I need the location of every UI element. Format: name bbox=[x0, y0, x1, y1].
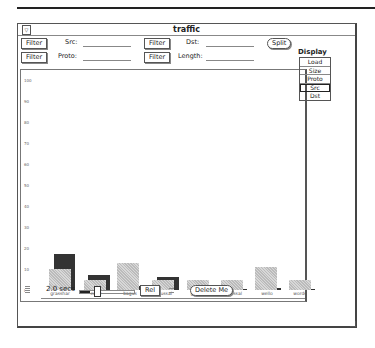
display-item-size[interactable]: Size bbox=[300, 67, 330, 76]
window-title: traffic bbox=[18, 24, 355, 35]
rel-button[interactable]: Rel bbox=[140, 285, 160, 296]
slider-knob[interactable] bbox=[94, 286, 101, 297]
dst-filter-button[interactable]: Filter bbox=[144, 38, 170, 49]
src-input[interactable] bbox=[83, 38, 131, 47]
display-list: Load Size Proto Src Dst bbox=[299, 57, 331, 101]
y-tick: 20 bbox=[24, 246, 29, 251]
interval-label: 2.0 secs bbox=[46, 285, 75, 294]
split-button[interactable]: Split bbox=[267, 38, 291, 49]
title-bar[interactable]: ▽ traffic bbox=[18, 24, 355, 36]
bar-bagus-light bbox=[117, 263, 139, 290]
interval-slider[interactable] bbox=[79, 290, 135, 294]
delete-me-button[interactable]: Delete Me bbox=[190, 285, 233, 296]
y-tick: 100 bbox=[24, 78, 32, 83]
y-tick: 70 bbox=[24, 141, 29, 146]
x-axis-line bbox=[41, 298, 305, 299]
resize-corner-icon[interactable] bbox=[350, 321, 356, 327]
top-rule bbox=[17, 7, 375, 9]
bar-words-dark bbox=[311, 289, 315, 290]
display-title: Display bbox=[298, 48, 327, 56]
grip-icon[interactable] bbox=[25, 286, 30, 293]
display-item-dst[interactable]: Dst bbox=[300, 92, 330, 100]
proto-filter-button[interactable]: Filter bbox=[21, 52, 47, 63]
x-label: words bbox=[283, 291, 317, 296]
display-item-proto[interactable]: Proto bbox=[300, 75, 330, 84]
y-tick: 40 bbox=[24, 204, 29, 209]
y-tick: 30 bbox=[24, 225, 29, 230]
y-tick: 80 bbox=[24, 120, 29, 125]
length-input[interactable] bbox=[206, 52, 254, 61]
menu-icon[interactable] bbox=[169, 288, 174, 293]
bar-wello-dark bbox=[277, 288, 281, 290]
bar-colossal-dark bbox=[243, 289, 247, 290]
y-tick: 50 bbox=[24, 183, 29, 188]
x-label: wello bbox=[250, 291, 284, 296]
y-tick: 60 bbox=[24, 162, 29, 167]
bar-words-light bbox=[289, 280, 311, 290]
traffic-chart: 100 90 80 70 60 50 40 30 20 10 0 bbox=[20, 69, 307, 302]
proto-input[interactable] bbox=[83, 52, 131, 61]
length-label: Length: bbox=[178, 52, 203, 61]
bar-wello-light bbox=[255, 267, 277, 290]
src-filter-button[interactable]: Filter bbox=[21, 38, 47, 49]
display-item-load[interactable]: Load bbox=[300, 58, 330, 67]
dst-label: Dst: bbox=[186, 38, 199, 47]
dst-input[interactable] bbox=[206, 38, 254, 47]
y-tick: 10 bbox=[24, 267, 29, 272]
proto-label: Proto: bbox=[58, 52, 77, 61]
src-label: Src: bbox=[65, 38, 77, 47]
y-tick: 90 bbox=[24, 99, 29, 104]
length-filter-button[interactable]: Filter bbox=[144, 52, 170, 63]
display-item-src[interactable]: Src bbox=[300, 84, 330, 93]
